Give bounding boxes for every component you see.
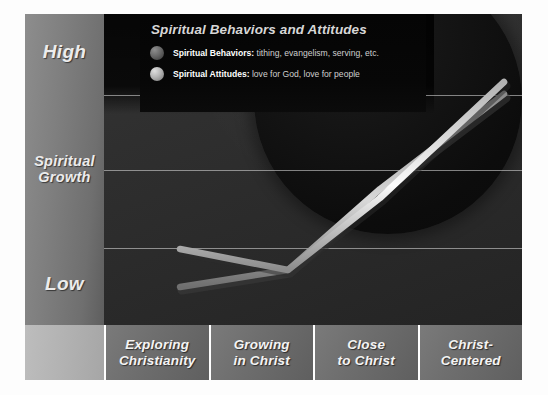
y-axis-label-spiritual-growth: Spiritual Growth xyxy=(25,154,104,185)
x-axis-row: Exploring Christianity Growing in Christ… xyxy=(25,325,522,380)
x-axis-cell-christ-centered-label: Christ- Centered xyxy=(441,337,501,368)
x-label-line1: Growing xyxy=(234,337,290,352)
chart-figure: High Spiritual Growth Low xyxy=(25,14,522,380)
x-label-line1: Exploring xyxy=(125,337,189,352)
legend-item-attitudes-name: Spiritual Attitudes: xyxy=(173,69,250,79)
legend-item-behaviors-name: Spiritual Behaviors: xyxy=(173,48,254,58)
sphere-bullet-icon-behaviors xyxy=(150,46,164,60)
x-axis-cell-christ-centered: Christ- Centered xyxy=(420,325,523,380)
legend-item-attitudes-text: Spiritual Attitudes: love for God, love … xyxy=(173,69,360,79)
x-axis-cell-close-to-christ-label: Close to Christ xyxy=(338,337,395,368)
legend-title: Spiritual Behaviors and Attitudes xyxy=(151,22,418,37)
sphere-bullet-icon-attitudes xyxy=(150,67,164,81)
x-axis-cell-exploring-christianity: Exploring Christianity xyxy=(106,325,209,380)
x-label-line1: Christ- xyxy=(448,337,493,352)
x-label-line2: to Christ xyxy=(338,353,395,368)
legend-panel: Spiritual Behaviors and Attitudes Spirit… xyxy=(140,14,426,112)
series-line-spiritual-attitudes-shadow xyxy=(182,86,506,273)
x-axis-corner-cell xyxy=(25,325,104,380)
y-axis-rail: High Spiritual Growth Low xyxy=(25,14,104,325)
x-axis-cell-growing-in-christ: Growing in Christ xyxy=(211,325,314,380)
figure-canvas: High Spiritual Growth Low xyxy=(0,0,548,395)
legend-item-behaviors-detail: tithing, evangelism, serving, etc. xyxy=(254,48,379,58)
x-label-line2: Christianity xyxy=(119,353,196,368)
legend-item-spiritual-attitudes: Spiritual Attitudes: love for God, love … xyxy=(150,67,418,81)
x-label-line2: in Christ xyxy=(233,353,290,368)
y-axis-label-high: High xyxy=(25,42,104,63)
y-axis-label-spiritual-growth-line1: Spiritual xyxy=(25,154,104,170)
legend-item-behaviors-text: Spiritual Behaviors: tithing, evangelism… xyxy=(173,48,379,58)
x-axis-cell-exploring-christianity-label: Exploring Christianity xyxy=(119,337,196,368)
x-axis-cell-growing-in-christ-label: Growing in Christ xyxy=(233,337,290,368)
plot-area: Spiritual Behaviors and Attitudes Spirit… xyxy=(104,14,522,325)
legend-item-spiritual-behaviors: Spiritual Behaviors: tithing, evangelism… xyxy=(150,46,418,60)
x-label-line1: Close xyxy=(347,337,385,352)
y-axis-label-spiritual-growth-line2: Growth xyxy=(25,170,104,186)
x-axis-cell-close-to-christ: Close to Christ xyxy=(315,325,418,380)
legend-item-attitudes-detail: love for God, love for people xyxy=(250,69,360,79)
x-label-line2: Centered xyxy=(441,353,501,368)
y-axis-label-low: Low xyxy=(25,274,104,295)
